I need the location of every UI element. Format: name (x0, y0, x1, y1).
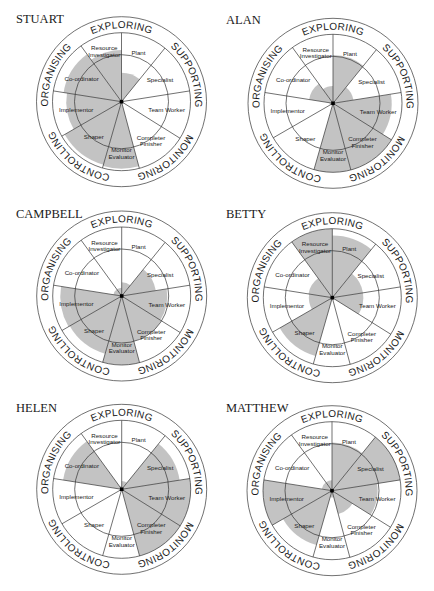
role-label-plant: Plant (342, 438, 356, 445)
role-label-specialist: Specialist (357, 465, 384, 472)
role-label-specialist: Specialist (147, 271, 174, 278)
center-dot (120, 100, 124, 104)
role-label-shaper: Shaper (84, 133, 104, 140)
wheel-title: CAMPBELL (16, 207, 83, 221)
center-dot (120, 294, 124, 298)
center-dot (330, 489, 334, 493)
role-label-plant: Plant (342, 245, 356, 252)
role-label-implementor: Implementor (59, 106, 93, 113)
role-label-plant: Plant (131, 49, 145, 56)
role-label-monitor-evaluator: MonitorEvaluator (108, 146, 134, 160)
role-label-completer-finisher: CompleterFinisher (137, 134, 166, 148)
role-label-co-ordinator: Co-ordinator (65, 462, 99, 469)
sector-divider (122, 91, 190, 102)
role-label-team-worker: Team Worker (359, 495, 396, 502)
wheel-title: ALAN (226, 13, 261, 27)
role-label-monitor-evaluator: MonitorEvaluator (319, 535, 345, 549)
ring-label-organising: ORGANISING (250, 42, 284, 108)
role-label-resource-investigator: ResourceInvestigator (88, 239, 120, 253)
role-label-team-worker: Team Worker (149, 301, 186, 308)
wheel-helen: HELEN PlantSpecialistTeam WorkerComplete… (16, 401, 207, 574)
shade-plant (122, 73, 140, 102)
role-label-completer-finisher: CompleterFinisher (137, 328, 166, 342)
role-label-co-ordinator: Co-ordinator (65, 269, 99, 276)
role-label-co-ordinator: Co-ordinator (64, 75, 98, 82)
role-label-resource-investigator: ResourceInvestigator (299, 433, 331, 447)
role-label-resource-investigator: ResourceInvestigator (88, 432, 120, 446)
ring-label-supporting: SUPPORTING (169, 234, 204, 302)
role-label-specialist: Specialist (147, 76, 174, 83)
wheel-title: MATTHEW (226, 401, 289, 415)
role-label-shaper: Shaper (84, 521, 104, 528)
role-label-shaper: Shaper (294, 522, 314, 529)
ring-label-supporting: SUPPORTING (169, 40, 204, 108)
role-label-completer-finisher: CompleterFinisher (348, 330, 377, 344)
wheel-title: BETTY (226, 207, 266, 221)
ring-label-organising: ORGANISING (250, 237, 284, 303)
wheel-matthew: MATTHEW PlantSpecialistTeam WorkerComple… (226, 401, 417, 576)
role-label-resource-investigator: ResourceInvestigator (300, 46, 332, 60)
role-label-implementor: Implementor (59, 300, 93, 307)
role-label-completer-finisher: CompleterFinisher (137, 521, 166, 535)
wheel-campbell: CAMPBELL PlantSpecialistTeam WorkerCompl… (16, 207, 207, 381)
wheel-betty: BETTY PlantSpecialistTeam WorkerComplete… (226, 207, 417, 383)
role-label-implementor: Implementor (271, 107, 305, 114)
role-label-team-worker: Team Worker (359, 302, 396, 309)
role-label-plant: Plant (132, 243, 146, 250)
team-role-wheels-figure: STUART PlantSpecialistTeam WorkerComplet… (0, 0, 434, 591)
role-label-shaper: Shaper (295, 329, 315, 336)
role-label-monitor-evaluator: MonitorEvaluator (109, 534, 135, 548)
role-label-co-ordinator: Co-ordinator (275, 464, 309, 471)
center-dot (331, 296, 335, 300)
role-label-shaper: Shaper (84, 327, 104, 334)
role-label-resource-investigator: ResourceInvestigator (88, 44, 120, 58)
ring-label-organising: ORGANISING (39, 428, 73, 494)
role-label-resource-investigator: ResourceInvestigator (299, 240, 331, 254)
center-dot (331, 102, 335, 106)
role-label-implementor: Implementor (59, 493, 93, 500)
role-label-co-ordinator: Co-ordinator (276, 76, 310, 83)
role-label-monitor-evaluator: MonitorEvaluator (320, 148, 346, 162)
role-label-plant: Plant (343, 50, 357, 57)
role-label-completer-finisher: CompleterFinisher (348, 135, 377, 149)
wheel-alan: ALAN PlantSpecialistTeam WorkerCompleter… (226, 13, 418, 188)
ring-label-supporting: SUPPORTING (380, 236, 415, 304)
role-label-team-worker: Team Worker (360, 108, 397, 115)
role-label-shaper: Shaper (295, 135, 315, 142)
role-label-specialist: Specialist (358, 78, 385, 85)
role-label-completer-finisher: CompleterFinisher (347, 523, 376, 537)
center-dot (120, 488, 124, 492)
role-label-plant: Plant (132, 436, 146, 443)
wheel-title: HELEN (16, 401, 57, 415)
role-label-implementor: Implementor (270, 302, 304, 309)
role-label-implementor: Implementor (270, 495, 304, 502)
role-label-monitor-evaluator: MonitorEvaluator (319, 342, 345, 356)
wheel-title: STUART (16, 12, 64, 26)
role-label-co-ordinator: Co-ordinator (275, 271, 309, 278)
role-label-monitor-evaluator: MonitorEvaluator (109, 341, 135, 355)
wheel-stuart: STUART PlantSpecialistTeam WorkerComplet… (16, 12, 207, 187)
role-label-specialist: Specialist (147, 464, 174, 471)
role-label-team-worker: Team Worker (148, 106, 185, 113)
role-label-specialist: Specialist (358, 272, 385, 279)
role-label-team-worker: Team Worker (149, 494, 186, 501)
